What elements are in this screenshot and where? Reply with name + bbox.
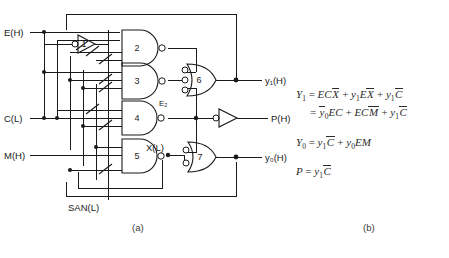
wire-network xyxy=(30,14,268,196)
port-labels: E(H) C(L) M(H) SAN(L) y₁(H) P(H) y₀(H) E… xyxy=(4,27,291,214)
output-y0-label: y₀(H) xyxy=(265,152,287,163)
output-y1-label: y₁(H) xyxy=(265,75,286,86)
caption-b: (b) xyxy=(363,222,375,233)
eq-p-t1-bar: C xyxy=(323,165,331,178)
eq-y0-lhs-sub: 0 xyxy=(302,142,306,151)
equation-y0: Y0 = y1C + y0EM xyxy=(296,136,444,152)
equations-panel: Y1 = ECX + y1EX + y1C = y0EC + ECM + y1C… xyxy=(296,88,444,195)
gate-1-inverter: 1 xyxy=(72,35,108,53)
input-c-label: C(L) xyxy=(4,113,22,124)
gate-5-label: 5 xyxy=(134,151,139,161)
caption-a: (a) xyxy=(132,222,144,233)
eq-y1b-mbar: M xyxy=(368,106,378,119)
eq-y1b-ec: EC xyxy=(329,106,343,118)
gate-7-label: 7 xyxy=(197,152,202,162)
input-san-label: SAN(L) xyxy=(68,202,99,213)
node-e2-label: E₂ xyxy=(159,99,167,108)
eq-y1b-t3-bar: C xyxy=(399,106,407,119)
eq-y0-t2-rest: EM xyxy=(355,136,371,148)
input-m-label: M(H) xyxy=(4,150,25,161)
eq-p-lhs: P xyxy=(296,165,303,177)
eq-y1b-ec2: EC xyxy=(354,106,368,118)
gate-1-label: 1 xyxy=(81,39,86,49)
eq-y1-t1: EC xyxy=(318,88,332,100)
negation-slash-marks xyxy=(76,41,112,174)
gate-2-nand: 2 xyxy=(122,30,165,66)
gate-p-inverter xyxy=(213,109,237,127)
eq-y0-t1-bar: C xyxy=(326,136,334,149)
output-p-label: P(H) xyxy=(271,113,291,124)
eq-y1-t2-bar: X xyxy=(366,88,374,101)
gate-3-label: 3 xyxy=(134,76,139,86)
eq-y1-lhs-sub: 1 xyxy=(302,94,306,103)
gate-3-nand: 3 xyxy=(122,63,165,99)
gate-2-label: 2 xyxy=(134,43,139,53)
input-e-label: E(H) xyxy=(4,27,24,38)
eq-y1-t3-bar: C xyxy=(395,88,403,101)
gate-4-label: 4 xyxy=(134,113,139,123)
gate-6-nor: 6 xyxy=(182,64,216,96)
equation-y1-line2: = y0EC + ECM + y1C xyxy=(296,106,444,122)
equation-p: P = y1C xyxy=(296,165,444,181)
equation-y1-line1: Y1 = ECX + y1EX + y1C xyxy=(296,88,444,104)
gate-6-label: 6 xyxy=(196,75,201,85)
node-x-label: X(L) xyxy=(146,142,164,153)
eq-y1-t1-bar: X xyxy=(332,88,340,101)
eq-y1-t2-mid: E xyxy=(360,88,367,100)
figure-root: 1 2 3 4 5 xyxy=(0,0,449,258)
gate-4-nand: 4 xyxy=(122,101,164,135)
gate-7-nor: 7 xyxy=(183,142,216,172)
